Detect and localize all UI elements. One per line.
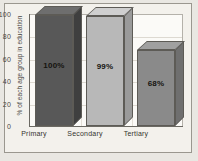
bar-primary: 100% — [35, 15, 73, 126]
y-axis-label: % of each age group in education — [16, 14, 23, 118]
x-axis-line — [29, 126, 183, 127]
bar-tertiary: 68% — [137, 50, 175, 126]
y-tick-label-40: 40 — [0, 78, 11, 85]
y-axis-line — [29, 14, 30, 127]
bar-secondary: 99% — [86, 16, 124, 126]
y-tick-label-60: 60 — [0, 56, 11, 63]
bar-secondary-side — [124, 7, 133, 126]
bar-primary-side — [73, 6, 82, 126]
plot-area: 100% 99% 68% — [29, 14, 183, 127]
bar-secondary-value-label: 99% — [86, 62, 124, 71]
bar-tertiary-value-label: 68% — [137, 79, 175, 88]
bar-tertiary-side — [175, 41, 184, 126]
y-tick-label-0: 0 — [0, 123, 11, 130]
chart-figure: % of each age group in education 100 80 … — [4, 3, 192, 153]
bar-primary-face — [35, 15, 73, 126]
y-tick-label-80: 80 — [0, 33, 11, 40]
bar-primary-value-label: 100% — [35, 61, 73, 70]
bar-secondary-face — [86, 16, 124, 126]
y-tick-label-20: 20 — [0, 101, 11, 108]
x-tick-label-tertiary: Tertiary — [106, 130, 166, 137]
y-tick-label-100: 100 — [0, 11, 11, 18]
bar-tertiary-face — [137, 50, 175, 126]
